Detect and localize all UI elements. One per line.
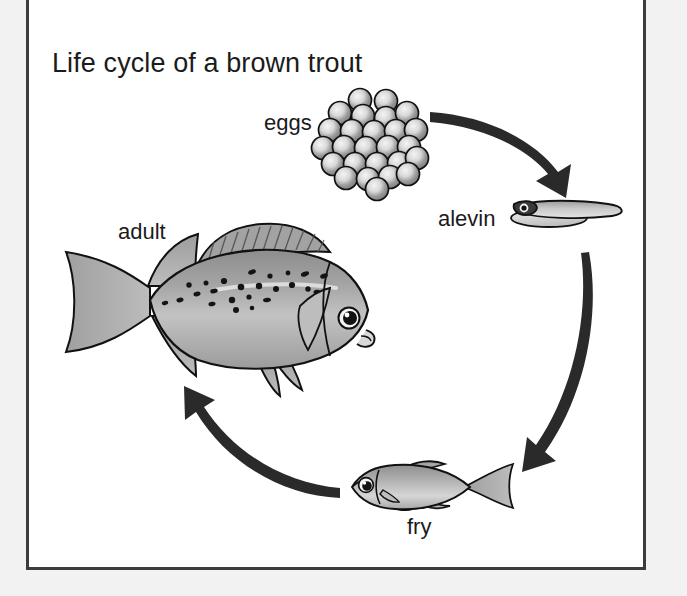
stage-label-adult: adult [118, 219, 166, 245]
arrow-eggs-to-alevin [430, 112, 571, 198]
stage-label-alevin: alevin [438, 206, 495, 232]
page-title: Life cycle of a brown trout [52, 48, 362, 79]
life-cycle-illustration [0, 0, 687, 596]
alevin-illustration [511, 201, 622, 227]
eggs-illustration [312, 89, 429, 201]
arrow-alevin-to-fry [522, 252, 593, 472]
stage-label-fry: fry [407, 514, 431, 540]
fry-illustration [352, 461, 513, 510]
adult-trout-illustration [66, 224, 375, 396]
stage-label-eggs: eggs [264, 110, 312, 136]
diagram-canvas: Life cycle of a brown trout eggs alevin … [0, 0, 687, 596]
arrow-fry-to-adult [184, 386, 340, 498]
